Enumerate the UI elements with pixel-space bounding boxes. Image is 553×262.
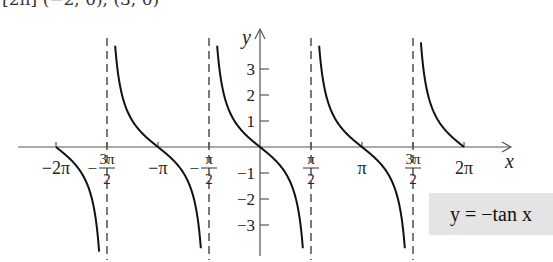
- y-tick-label: 1: [247, 112, 256, 131]
- x-tick-label-numerator: 3π: [99, 151, 115, 167]
- y-tick-label: −2: [237, 190, 255, 209]
- x-tick-label-numerator: 3π: [405, 151, 421, 167]
- y-tick-label: −3: [237, 216, 255, 235]
- x-axis-label: x: [504, 150, 514, 172]
- y-tick-label: 2: [247, 86, 256, 105]
- y-tick-label: −1: [237, 164, 255, 183]
- x-tick-label-denominator: 2: [103, 171, 111, 187]
- legend-text: y = −tan x: [450, 203, 532, 226]
- x-tick-label-numerator: π: [205, 151, 213, 167]
- y-axis-label: y: [240, 26, 251, 49]
- x-tick-label: −π: [148, 158, 167, 178]
- x-tick-label: 2π: [455, 158, 473, 178]
- x-tick-label-numerator: π: [307, 151, 315, 167]
- x-tick-label: −2π: [42, 158, 70, 178]
- x-tick-label-minus: −: [189, 159, 199, 178]
- tangent-curve-branch: [421, 42, 464, 147]
- function-legend: y = −tan x: [429, 193, 553, 235]
- x-tick-label-denominator: 2: [205, 171, 213, 187]
- x-tick-label: π: [357, 158, 366, 178]
- y-tick-label: 3: [247, 60, 256, 79]
- x-tick-label-denominator: 2: [409, 171, 417, 187]
- x-tick-label-denominator: 2: [307, 171, 315, 187]
- x-tick-label-minus: −: [87, 159, 97, 178]
